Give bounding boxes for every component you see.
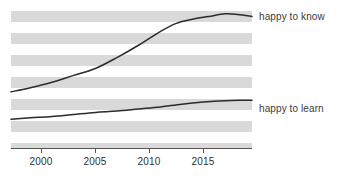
grid-bands xyxy=(11,11,252,148)
line-chart: 2000 2005 2010 2015 xyxy=(0,0,339,179)
x-axis-ticks xyxy=(42,149,204,154)
grid-band xyxy=(11,121,252,132)
series-label-happy-to-know: happy to know xyxy=(259,11,325,22)
x-tick-label: 2015 xyxy=(191,156,214,167)
grid-band xyxy=(11,55,252,66)
x-axis-tick-labels: 2000 2005 2010 2015 xyxy=(29,156,214,167)
x-tick-label: 2005 xyxy=(83,156,106,167)
series-label-happy-to-learn: happy to learn xyxy=(259,103,324,114)
chart-container: 2000 2005 2010 2015 happy to know happy … xyxy=(0,0,339,179)
x-tick-label: 2010 xyxy=(137,156,160,167)
grid-band xyxy=(11,77,252,88)
grid-band xyxy=(11,11,252,22)
grid-band xyxy=(11,33,252,44)
grid-band xyxy=(11,143,252,148)
x-tick-label: 2000 xyxy=(29,156,52,167)
